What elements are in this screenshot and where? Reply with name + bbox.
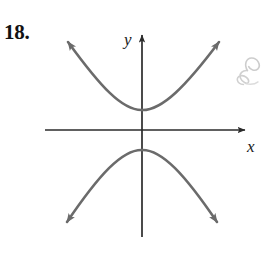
hyperbola-lower-right-branch: [142, 150, 217, 222]
hyperbola-graph: y x: [0, 0, 277, 260]
x-axis-label: x: [246, 137, 255, 156]
hyperbola-upper-right-branch: [142, 42, 219, 110]
handwritten-annotation: [235, 56, 268, 92]
y-axis-label: y: [122, 30, 132, 49]
figure-container: 18. y x: [0, 0, 277, 260]
hyperbola-lower-left-branch: [67, 150, 142, 222]
hyperbola-upper-left-branch: [68, 42, 142, 110]
